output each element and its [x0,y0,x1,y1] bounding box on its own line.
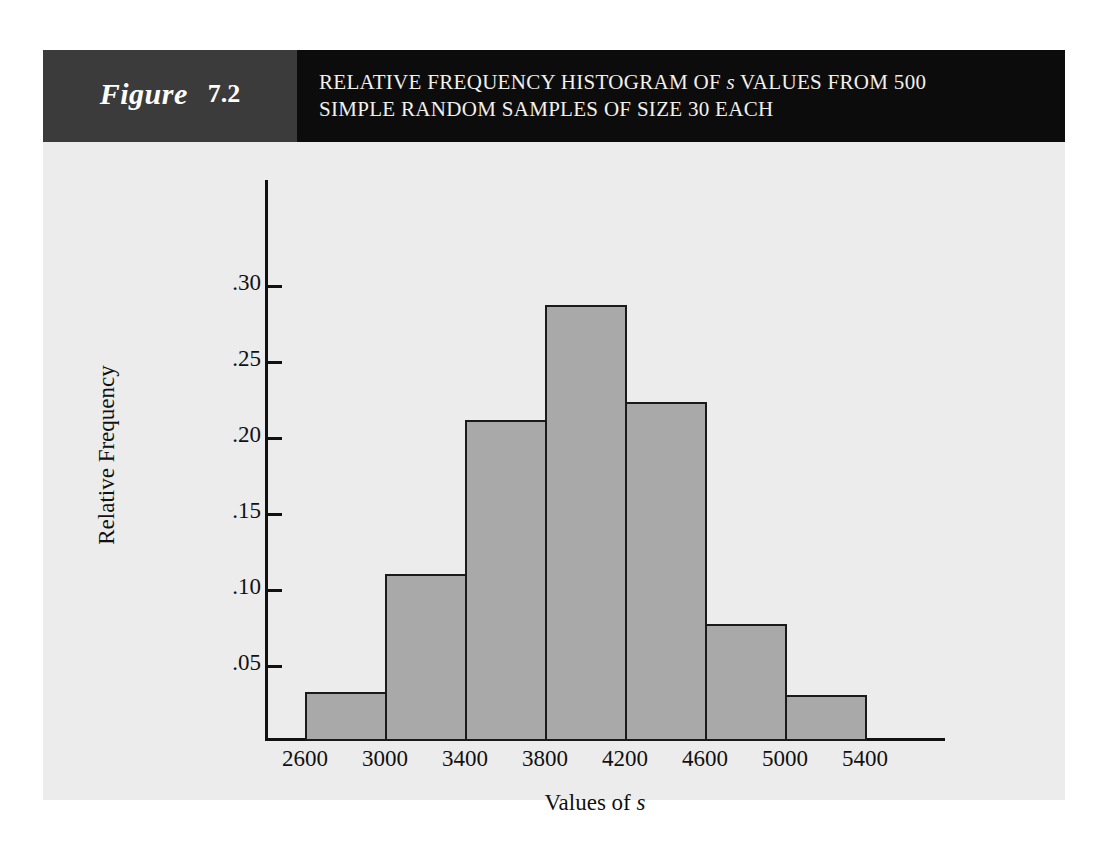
y-tick-15 [268,513,282,516]
figure-title-block: RELATIVE FREQUENCY HISTOGRAM OF s VALUES… [297,50,1065,142]
histogram-bar [305,692,387,741]
y-axis-title: Relative Frequency [94,325,120,585]
figure-panel: Figure 7.2 RELATIVE FREQUENCY HISTOGRAM … [43,50,1065,800]
histogram-bar [705,624,787,741]
figure-page: Figure 7.2 RELATIVE FREQUENCY HISTOGRAM … [0,0,1111,849]
x-tick-label: 5000 [745,746,825,772]
x-axis-title-pre: Values of [545,790,637,815]
y-tick-20 [268,437,282,440]
figure-title-line-2: SIMPLE RANDOM SAMPLES OF SIZE 30 EACH [319,96,1065,123]
figure-header: Figure 7.2 RELATIVE FREQUENCY HISTOGRAM … [43,50,1065,142]
y-tick-05 [268,665,282,668]
y-tick-label: .30 [203,270,261,296]
histogram-bars [265,180,945,741]
y-tick-label: .20 [203,422,261,448]
x-tick-label: 5400 [825,746,905,772]
y-tick-label: .25 [203,346,261,372]
histogram-bar [465,420,547,741]
histogram-bar [785,695,867,741]
x-tick-label: 4600 [665,746,745,772]
plot-area: Relative Frequency Values of s .05.10.15… [43,142,1065,800]
figure-label-block: Figure 7.2 [43,50,297,142]
figure-title-line-1: RELATIVE FREQUENCY HISTOGRAM OF s VALUES… [319,69,1065,96]
y-tick-30 [268,285,282,288]
histogram-bar [385,574,467,741]
figure-word: Figure [100,77,188,111]
x-tick-label: 4200 [585,746,665,772]
title-line1-post: VALUES FROM 500 [735,70,926,94]
y-tick-label: .10 [203,574,261,600]
x-tick-label: 3400 [425,746,505,772]
x-tick-label: 3000 [345,746,425,772]
x-axis-title-symbol: s [637,790,646,815]
y-tick-25 [268,361,282,364]
figure-number: 7.2 [208,79,241,109]
title-line1-symbol: s [726,70,734,94]
histogram-bar [625,402,707,741]
x-tick-label: 3800 [505,746,585,772]
x-tick-label: 2600 [265,746,345,772]
histogram-bar [545,305,627,741]
x-axis-title: Values of s [445,790,745,816]
title-line1-pre: RELATIVE FREQUENCY HISTOGRAM OF [319,70,726,94]
y-tick-label: .05 [203,650,261,676]
y-tick-label: .15 [203,498,261,524]
y-tick-10 [268,589,282,592]
